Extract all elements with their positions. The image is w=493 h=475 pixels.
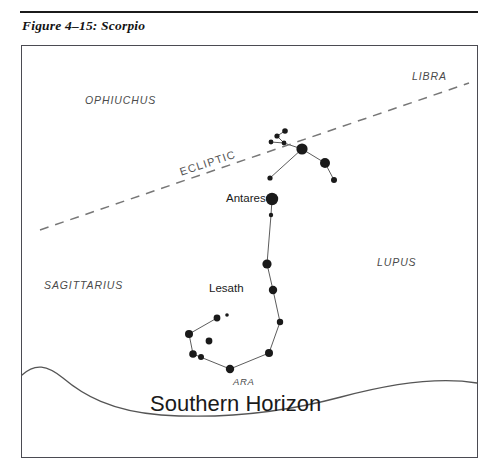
figure-caption: Figure 4–15: Scorpio	[22, 18, 145, 34]
constellation-line	[189, 318, 217, 334]
star-kappa-sco	[185, 330, 193, 338]
star-lesath	[214, 315, 221, 322]
constellation-label-sagittarius: SAGITTARIUS	[44, 279, 123, 291]
caption-rule	[20, 11, 478, 13]
star-rho-sco	[267, 175, 272, 180]
star-shaula	[225, 313, 229, 317]
star-dschubba	[320, 158, 330, 168]
star-epsilon-sco	[262, 259, 271, 268]
star-head-d	[269, 140, 274, 145]
constellation-label-lupus: LUPUS	[377, 256, 417, 268]
star-head-c	[282, 141, 287, 146]
star-zeta-sco	[277, 319, 283, 325]
star-g-sco	[206, 338, 213, 345]
star-head-b	[282, 128, 288, 134]
constellation-line	[270, 149, 302, 178]
star-iota-sco	[189, 350, 197, 358]
star-q-sco	[198, 354, 204, 360]
constellation-label-ara: ARA	[233, 376, 255, 387]
southern-horizon-label: Southern Horizon	[150, 391, 321, 417]
star-theta-sco	[226, 365, 234, 373]
constellation-label-libra: LIBRA	[412, 70, 447, 82]
star-mu-sco	[269, 286, 277, 294]
figure-container: Figure 4–15: Scorpio OPHIUCHUS LIBRA SAG…	[0, 0, 493, 475]
constellation-label-ophiuchus: OPHIUCHUS	[85, 94, 156, 106]
constellation-line	[267, 215, 271, 264]
star-graffias	[296, 143, 307, 154]
star-antares	[266, 193, 278, 205]
constellation-line	[230, 353, 269, 369]
star-tau-sco	[269, 213, 273, 217]
star-label-antares: Antares	[226, 192, 266, 204]
constellation-line	[269, 322, 280, 353]
star-label-lesath: Lesath	[209, 282, 244, 294]
star-eta-sco	[265, 349, 273, 357]
star-pi-sco	[331, 177, 337, 183]
constellation-line	[273, 290, 280, 322]
star-head-a	[274, 133, 279, 138]
